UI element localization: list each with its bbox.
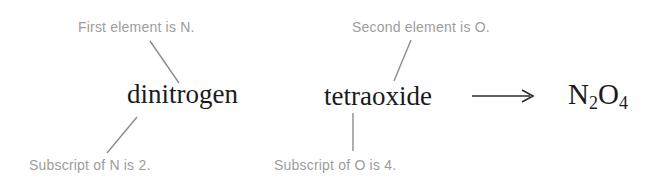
annotation-subscript-n: Subscript of N is 2. [29,157,151,173]
annotation-first-element: First element is N. [78,19,195,35]
term-dinitrogen: dinitrogen [127,79,238,110]
product-subscript-two: 4 [619,93,628,113]
product-element-one: N [568,78,589,110]
reaction-arrow-icon [472,86,536,110]
leader-line-first-element [150,41,179,83]
annotation-subscript-o: Subscript of O is 4. [274,157,396,173]
leader-line-subscript-n [107,117,137,153]
leader-line-second-element [394,40,411,81]
term-tetraoxide: tetraoxide [324,81,432,112]
chemistry-naming-diagram: First element is N. Second element is O.… [0,0,655,187]
annotation-second-element: Second element is O. [352,19,490,35]
product-element-two: O [598,78,619,110]
product-subscript-one: 2 [589,93,598,113]
product-formula: N2O4 [568,78,628,114]
